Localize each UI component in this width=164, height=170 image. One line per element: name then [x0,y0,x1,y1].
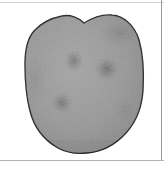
scan-image[interactable] [0,0,164,170]
lesion-upper-left [64,49,84,73]
lesion-upper-right [94,56,120,82]
lesion-lower-left [51,92,73,114]
scan-body-group [21,15,143,154]
shading-top-right [98,17,142,49]
caption-row [0,161,164,170]
shading-lower-right [110,92,142,128]
frame-rule-right [161,0,162,161]
scan-viewer [0,0,164,170]
